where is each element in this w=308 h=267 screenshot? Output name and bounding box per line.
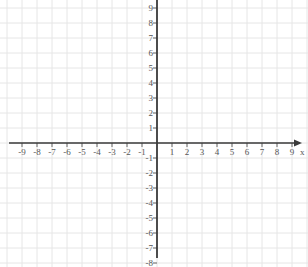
axes-layer	[0, 0, 308, 267]
arrow-right-icon	[294, 140, 302, 147]
coordinate-plane-figure: -9-8-7-6-5-4-3-2-1123456789987654321-1-2…	[0, 0, 308, 267]
